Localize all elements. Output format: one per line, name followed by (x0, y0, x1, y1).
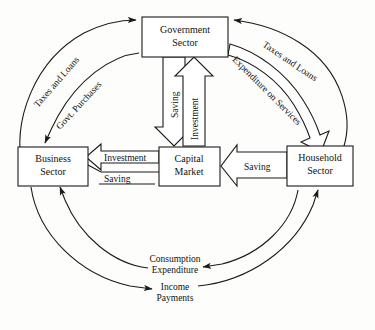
capital-market-label-line1: Capital (175, 153, 204, 164)
household-sector-label-line1: Household (298, 152, 341, 163)
arc-income-payments-right (198, 190, 318, 286)
label-saving-household: Saving (244, 162, 271, 172)
government-sector-label-line1: Government (160, 24, 210, 35)
label-income-line2: Payments (157, 293, 194, 303)
label-investment-vertical: Investment (190, 97, 200, 140)
label-saving-vertical: Saving (170, 91, 180, 118)
arc-consumption-expenditure (203, 190, 298, 267)
business-sector-label-line2: Sector (40, 166, 66, 177)
node-government-sector[interactable]: Government Sector (142, 17, 228, 57)
arc-label-taxes-and-loans-left: Taxes and Loans (32, 54, 82, 109)
business-sector-label-line1: Business (35, 153, 71, 164)
label-saving-business: Saving (104, 174, 131, 184)
arc-income-payments-left (31, 187, 152, 289)
label-consumption-line1: Consumption (149, 254, 200, 264)
node-capital-market[interactable]: Capital Market (159, 147, 220, 186)
flow-diagram-canvas: Taxes and Loans Govt. Purchases Taxes an… (0, 0, 375, 330)
node-household-sector[interactable]: Household Sector (287, 146, 353, 186)
label-taxes-and-loans-left: Taxes and Loans (32, 54, 82, 109)
node-business-sector[interactable]: Business Sector (18, 147, 88, 186)
label-income-line1: Income (161, 282, 190, 292)
circular-flow-diagram: Taxes and Loans Govt. Purchases Taxes an… (0, 0, 375, 330)
government-sector-label-line2: Sector (172, 37, 198, 48)
capital-market-label-line2: Market (175, 166, 204, 177)
arc-consumption-expenditure-left (60, 187, 148, 268)
label-consumption-line2: Expenditure (152, 265, 198, 275)
household-sector-label-line2: Sector (307, 165, 333, 176)
label-investment-mid: Investment (104, 153, 147, 163)
